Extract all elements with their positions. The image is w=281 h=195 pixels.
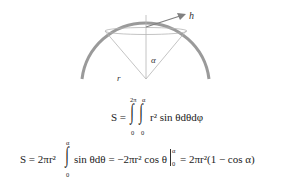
eq2-eval-lower: 0 — [172, 160, 175, 167]
eq2-upper-limit: α — [66, 139, 69, 146]
eq1-lhs: S = — [111, 111, 126, 123]
inner-upper-limit: α — [142, 96, 145, 103]
label-r: r — [117, 73, 121, 83]
label-alpha: α — [151, 55, 156, 65]
sphere-arc — [82, 23, 209, 79]
eq2-part1: S = 2πr² — [20, 153, 56, 165]
outer-upper-limit: 2π — [130, 96, 137, 103]
eval-bar — [170, 149, 171, 166]
eq2-part3: = 2πr²(1 − cos α) — [180, 153, 255, 165]
eq2-eval-upper: α — [172, 147, 175, 154]
cone-left-edge — [105, 31, 146, 79]
eq2-integral-sign: ∫ — [65, 144, 69, 166]
inner-integral-sign: ∫ — [139, 101, 143, 123]
inner-lower-limit: 0 — [141, 129, 144, 136]
outer-integral-sign: ∫ — [130, 101, 134, 123]
label-h: h — [189, 10, 194, 21]
spherical-cap-diagram: h α r — [0, 0, 281, 90]
outer-lower-limit: 0 — [131, 129, 134, 136]
eq2-part2: sin θdθ = −2πr² cos θ — [74, 153, 167, 165]
eq1-integrand: r² sin θdθdφ — [150, 111, 203, 123]
eq2-lower-limit: 0 — [66, 171, 69, 178]
